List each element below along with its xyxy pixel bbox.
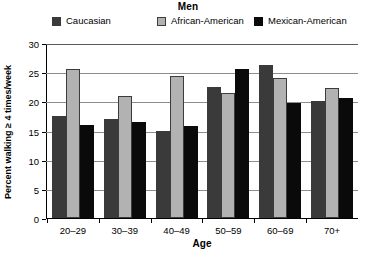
bar-chart: Men Caucasian African-American Mexican-A… [0, 0, 376, 264]
x-axis-tick-mark [202, 219, 203, 223]
x-axis-tick-mark [99, 219, 100, 223]
bar [311, 101, 325, 218]
bar [207, 87, 221, 218]
y-axis-tick-mark [42, 132, 46, 133]
x-axis-tick: 50–59 [202, 219, 254, 239]
y-axis-title-text: Percent walking ≥ 4 times/week [3, 65, 13, 199]
x-axis-tick-label: 40–49 [151, 225, 203, 236]
y-axis-tick-mark [42, 190, 46, 191]
legend-label: Mexican-American [268, 16, 347, 26]
bar [339, 98, 353, 218]
bar [184, 126, 198, 218]
y-axis-tick-label: 30 [28, 40, 39, 49]
x-axis-tick-label: 20–29 [47, 225, 99, 236]
bar [273, 78, 287, 218]
x-axis-tick: 60–69 [254, 219, 306, 239]
bar-group [306, 44, 358, 218]
bar [259, 65, 273, 218]
x-axis-tick: 30–39 [99, 219, 151, 239]
legend-label: African-American [171, 16, 244, 26]
x-axis-tick: 20–29 [47, 219, 99, 239]
x-axis-tick-label: 50–59 [202, 225, 254, 236]
y-axis-tick-mark [42, 73, 46, 74]
y-axis-tick-label: 25 [28, 69, 39, 78]
bar-group [254, 44, 306, 218]
bar-group [47, 44, 99, 218]
chart-legend: Caucasian African-American Mexican-Ameri… [52, 16, 347, 26]
bar [235, 69, 249, 218]
x-axis-tick-mark [306, 219, 307, 223]
bar-group [99, 44, 151, 218]
bar [221, 93, 235, 218]
y-axis-tick-label: 20 [28, 98, 39, 107]
bar [66, 69, 80, 218]
legend-item-african-american: African-American [157, 16, 254, 26]
y-axis-tick-label: 15 [28, 128, 39, 137]
x-axis-tick-label: 70+ [306, 225, 358, 236]
legend-swatch-icon [254, 17, 263, 26]
y-axis-tick-mark [42, 219, 46, 220]
x-axis-tick-mark [47, 219, 48, 223]
x-axis-tick-label: 60–69 [254, 225, 306, 236]
bar [156, 131, 170, 219]
y-axis-tick-mark [42, 102, 46, 103]
bar [80, 125, 94, 218]
bar-group [151, 44, 203, 218]
x-axis-tick: 40–49 [151, 219, 203, 239]
y-axis-tick-label: 10 [28, 157, 39, 166]
legend-swatch-icon [157, 17, 166, 26]
y-axis-tick-label: 5 [34, 186, 39, 195]
bar [287, 103, 301, 218]
x-axis-title: Age [46, 238, 358, 249]
x-axis-tick-mark [254, 219, 255, 223]
x-axis-tick: 70+ [306, 219, 358, 239]
y-axis-title: Percent walking ≥ 4 times/week [2, 44, 14, 219]
bar [170, 76, 184, 218]
y-axis-tick-label: 0 [34, 215, 39, 224]
legend-swatch-icon [52, 17, 61, 26]
bar [52, 116, 66, 218]
bar [118, 96, 132, 219]
chart-title: Men [0, 1, 376, 12]
x-axis-tick-label: 30–39 [99, 225, 151, 236]
plot-area: 302520151050 [46, 44, 358, 219]
bar [132, 122, 146, 218]
x-axis-ticks: 20–2930–3940–4950–5960–6970+ [47, 219, 358, 239]
bar [104, 119, 118, 218]
x-axis-tick-mark [151, 219, 152, 223]
legend-item-mexican-american: Mexican-American [254, 16, 347, 26]
legend-label: Caucasian [66, 16, 111, 26]
y-axis-tick-mark [42, 161, 46, 162]
legend-item-caucasian: Caucasian [52, 16, 157, 26]
y-axis-tick-mark [42, 44, 46, 45]
bar-group [202, 44, 254, 218]
bar [325, 88, 339, 218]
bar-groups [47, 44, 358, 218]
